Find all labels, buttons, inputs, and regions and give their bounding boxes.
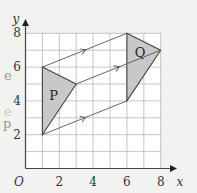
shape-label-p: P [49,88,58,103]
x-axis-arrow-icon [170,165,177,172]
y-axis-label: y [12,12,20,26]
y-tick-label: 4 [13,94,21,108]
y-axis-arrow-icon [22,19,29,26]
y-tick-label: 8 [13,26,21,40]
y-tick-label: 6 [13,60,21,74]
x-tick-label: 8 [157,175,165,189]
y-tick-label: 2 [13,128,21,142]
x-axis-label: x [177,175,184,189]
origin-label: O [14,175,24,189]
cropped-text-letter: e [4,68,12,83]
x-tick-label: 6 [123,175,131,189]
x-tick-label: 2 [55,175,63,189]
cropped-text-letter: p [3,116,11,131]
x-tick-label: 4 [89,175,97,189]
translation-diagram: PQ 24682468Oxy [0,0,197,193]
